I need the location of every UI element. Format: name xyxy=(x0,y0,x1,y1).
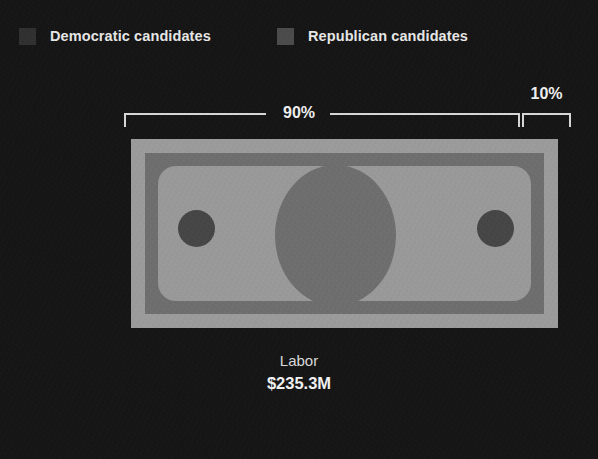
bracket-democratic-left-segment xyxy=(124,113,266,127)
bracket-annotations: 90% 10% xyxy=(0,0,598,140)
bill-portrait-oval-icon xyxy=(275,165,396,306)
bill-left-seal-icon xyxy=(178,210,215,247)
bill-right-seal-icon xyxy=(477,210,514,247)
sector-label: Labor xyxy=(0,352,598,369)
dollar-bill-graphic xyxy=(131,139,558,328)
bracket-label-democratic-percent: 90% xyxy=(272,104,326,122)
chart-figure: Democratic candidates Republican candida… xyxy=(0,0,598,459)
sector-amount: $235.3M xyxy=(0,374,598,393)
bracket-democratic-right-segment xyxy=(330,113,520,127)
bracket-republican xyxy=(522,113,571,127)
bracket-label-republican-percent: 10% xyxy=(518,85,575,103)
